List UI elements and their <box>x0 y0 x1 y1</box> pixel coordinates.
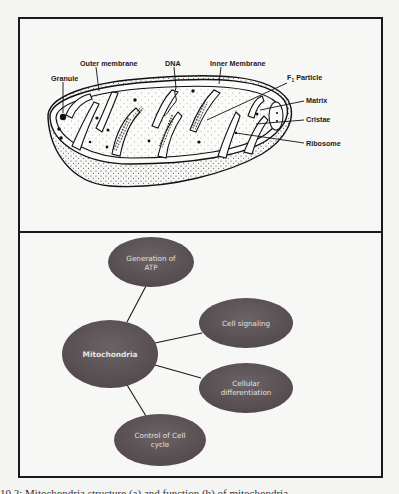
svg-text:Control of Cell: Control of Cell <box>135 431 186 440</box>
label-inner-membrane: Inner Membrane <box>210 59 266 68</box>
mitochondrion-drawing <box>48 76 291 187</box>
label-ribosome: Ribosome <box>306 139 341 148</box>
node-mitochondria: Mitochondria <box>62 320 158 388</box>
svg-text:ATP: ATP <box>144 263 158 272</box>
label-outer-membrane: Outer membrane <box>80 59 138 68</box>
svg-text:cycle: cycle <box>151 440 170 449</box>
figure-svg: Granule Outer membrane DNA Inner Membran… <box>0 0 399 494</box>
label-matrix: Matrix <box>306 96 327 105</box>
svg-text:differentiation: differentiation <box>221 388 272 397</box>
node-control-of-cell-cycle: Control of Cell cycle <box>114 414 206 466</box>
figure-caption: 10.2: Mitochondria structure (a) and fun… <box>0 484 399 494</box>
label-granule: Granule <box>51 74 78 83</box>
node-generation-of-atp: Generation of ATP <box>108 237 194 287</box>
svg-text:Generation of: Generation of <box>126 254 176 263</box>
label-f1-particle: F1 Particle <box>287 73 322 83</box>
label-cristae: Cristae <box>306 115 330 124</box>
svg-text:Cell signaling: Cell signaling <box>222 319 270 328</box>
node-cellular-differentiation: Cellular differentiation <box>199 363 293 413</box>
svg-text:Mitochondria: Mitochondria <box>83 350 138 359</box>
label-dna: DNA <box>165 59 181 68</box>
svg-text:Cellular: Cellular <box>232 379 259 388</box>
node-cell-signaling: Cell signaling <box>199 298 293 348</box>
